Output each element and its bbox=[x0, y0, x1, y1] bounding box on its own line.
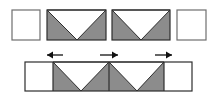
direction-arrows bbox=[47, 52, 172, 59]
arrow-left-icon bbox=[47, 52, 63, 59]
notched-rectangle bbox=[112, 10, 170, 40]
top-row-cells bbox=[12, 10, 206, 40]
notched-rectangle bbox=[47, 10, 106, 40]
notch-triangle-diagram bbox=[0, 0, 214, 99]
arrow-right-icon bbox=[100, 52, 118, 59]
arrow-right-icon bbox=[155, 52, 172, 59]
empty-square bbox=[12, 10, 40, 40]
bottom-combined-strip bbox=[25, 62, 192, 91]
empty-square bbox=[177, 10, 206, 40]
